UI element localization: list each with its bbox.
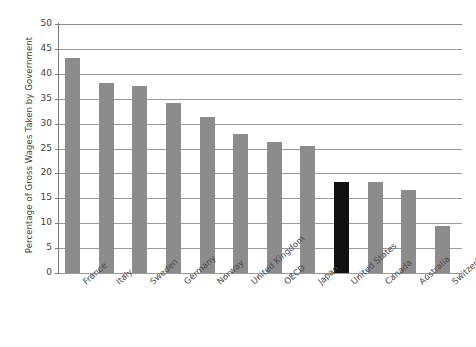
- x-tick-mark: [190, 274, 191, 278]
- y-tick-mark: [55, 74, 59, 75]
- x-axis-labels: FranceItalySwedenGermanyNorwayUnited Kin…: [0, 0, 476, 347]
- x-label-australia: Australia: [417, 279, 424, 286]
- y-tick-mark: [55, 248, 59, 249]
- x-label-switzerland: Switzerland: [450, 279, 457, 286]
- y-tick-mark: [55, 173, 59, 174]
- x-label-france: France: [81, 279, 88, 286]
- x-label-japan: Japan: [316, 279, 323, 286]
- y-tick-mark: [55, 198, 59, 199]
- x-tick-mark: [291, 274, 292, 278]
- x-tick-mark: [224, 274, 225, 278]
- y-tick-mark: [55, 124, 59, 125]
- y-tick-mark: [55, 223, 59, 224]
- x-tick-mark: [157, 274, 158, 278]
- x-tick-mark: [123, 274, 124, 278]
- x-tick-mark: [325, 274, 326, 278]
- x-tick-mark: [90, 274, 91, 278]
- y-tick-mark: [55, 149, 59, 150]
- x-label-norway: Norway: [215, 279, 222, 286]
- x-label-sweden: Sweden: [148, 279, 155, 286]
- x-tick-mark: [258, 274, 259, 278]
- x-label-oecd: OECD: [282, 279, 289, 286]
- bar-chart: Percentage of Gross Wages Taken by Gover…: [0, 0, 476, 347]
- x-label-united-kingdom: United Kingdom: [249, 279, 256, 286]
- x-tick-mark: [358, 274, 359, 278]
- y-tick-mark: [55, 24, 59, 25]
- y-tick-mark: [55, 273, 59, 274]
- x-label-italy: Italy: [114, 279, 121, 286]
- x-label-germany: Germany: [182, 279, 189, 286]
- x-tick-mark: [392, 274, 393, 278]
- y-tick-mark: [55, 49, 59, 50]
- x-label-canada: Canada: [383, 279, 390, 286]
- y-tick-mark: [55, 99, 59, 100]
- x-label-united-states: United States: [349, 279, 356, 286]
- x-tick-mark: [459, 274, 460, 278]
- x-tick-mark: [425, 274, 426, 278]
